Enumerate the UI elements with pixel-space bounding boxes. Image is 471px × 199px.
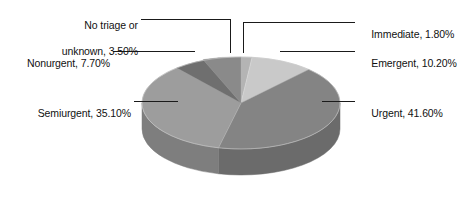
pie-chart-figure: No triage or unknown, 3.50% Nonurgent, 7… bbox=[0, 0, 471, 199]
slice-label-semiurgent-text: Semiurgent, 35.10% bbox=[38, 107, 131, 119]
slice-label-urgent: Urgent, 41.60% bbox=[360, 94, 470, 133]
slice-label-immediate-text: Immediate, 1.80% bbox=[371, 28, 454, 40]
slice-label-emergent: Emergent, 10.20% bbox=[360, 44, 470, 83]
slice-label-semiurgent: Semiurgent, 35.10% bbox=[12, 94, 131, 133]
slice-label-nonurgent-text: Nonurgent, 7.70% bbox=[27, 57, 110, 69]
leader-line-no-triage bbox=[141, 19, 230, 53]
slice-label-urgent-text: Urgent, 41.60% bbox=[371, 107, 443, 119]
slice-label-no-triage-line1: No triage or bbox=[84, 19, 138, 31]
slice-label-emergent-text: Emergent, 10.20% bbox=[371, 57, 456, 69]
pie-top-face bbox=[142, 57, 340, 149]
leader-line-immediate bbox=[243, 22, 355, 53]
slice-label-nonurgent: Nonurgent, 7.70% bbox=[10, 44, 110, 83]
